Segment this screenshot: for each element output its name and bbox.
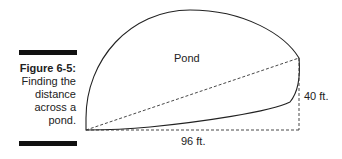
pond-diagram: Pond 96 ft. 40 ft. xyxy=(0,0,342,159)
pond-label: Pond xyxy=(174,52,200,64)
pond-outline xyxy=(86,10,299,130)
vertical-distance-label: 40 ft. xyxy=(304,90,328,102)
horizontal-distance-label: 96 ft. xyxy=(181,135,205,147)
diagonal-distance-line xyxy=(86,58,299,130)
